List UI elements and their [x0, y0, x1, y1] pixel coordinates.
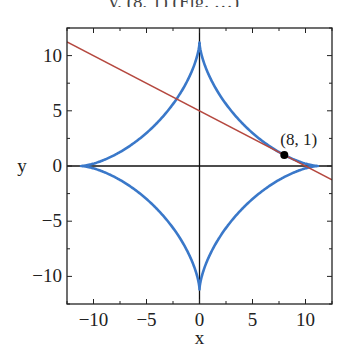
series-layer	[67, 28, 332, 304]
x-tick-label: −10	[79, 309, 109, 330]
x-axis-label: x	[195, 327, 205, 348]
tangent-point-marker	[280, 151, 288, 159]
y-tick-label: 5	[53, 100, 63, 121]
x-tick-label: 5	[248, 309, 258, 330]
y-axis-label: y	[17, 155, 27, 176]
y-tick-label: 0	[53, 155, 63, 176]
astroid-tangent-chart: −10−50510−10−50510xy(8, 1)	[0, 0, 348, 359]
point-label: (8, 1)	[280, 130, 317, 149]
labels-layer: −10−50510−10−50510xy(8, 1)	[17, 45, 317, 348]
y-tick-label: −5	[42, 210, 62, 231]
x-tick-label: −5	[136, 309, 156, 330]
y-tick-label: 10	[43, 45, 62, 66]
x-tick-label: 10	[296, 309, 315, 330]
y-tick-label: −10	[32, 265, 62, 286]
